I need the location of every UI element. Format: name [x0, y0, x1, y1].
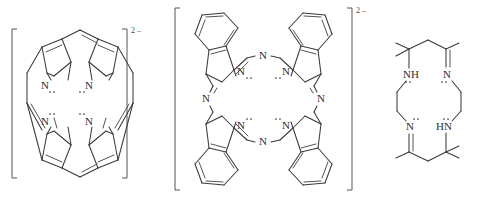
atom-label-n: N	[259, 135, 267, 147]
atom-label-n: N	[237, 65, 245, 77]
atom-label-n: N	[85, 115, 93, 127]
structure-tetraaza-macrocycle: NH N N HN	[396, 40, 461, 161]
atom-label-n: N	[41, 115, 49, 127]
atom-label-n: N	[85, 79, 93, 91]
phthalocyanine-skeleton: N	[195, 13, 332, 185]
macrocycle-skeleton	[396, 40, 461, 161]
atom-label-n: N	[259, 49, 267, 61]
atom-label-n: N	[406, 120, 414, 132]
atom-label-n: N	[282, 65, 290, 77]
charge-label-phthalocyanine: 2 –	[356, 6, 367, 15]
structure-porphyrin-dianion: N N N N 2 –	[12, 26, 142, 178]
atom-label-n: N	[317, 92, 325, 104]
charge-label-porphyrin: 2 –	[131, 26, 142, 35]
atom-label-n: N	[41, 79, 49, 91]
atom-label-n: N	[237, 119, 245, 131]
porphyrin-nitrogen-labels: N N N N	[41, 79, 93, 127]
structure-figure: N N N N 2 –	[0, 0, 478, 199]
bracket-left-porphyrin	[12, 29, 17, 178]
bracket-left-phthalocyanine	[175, 8, 180, 190]
bracket-right-porphyrin	[122, 29, 127, 178]
structure-phthalocyanine-dianion: N	[175, 6, 367, 190]
bracket-right-phthalocyanine	[347, 8, 352, 190]
atom-label-n: N	[202, 92, 210, 104]
atom-label-n: N	[282, 119, 290, 131]
atom-label-n: N	[443, 68, 451, 80]
porphyrin-skeleton	[27, 30, 133, 177]
atom-label-hn: HN	[436, 120, 452, 132]
atom-label-nh: NH	[403, 68, 419, 80]
macrocycle-nitrogen-labels: NH N N HN	[403, 68, 452, 132]
phthalocyanine-inner-nitrogens: N N N N	[234, 65, 293, 131]
